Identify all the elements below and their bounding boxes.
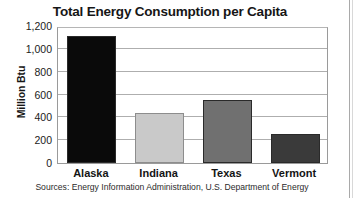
bar-texas: [203, 100, 252, 163]
x-tick-label-indiana: Indiana: [125, 167, 193, 179]
y-tick-label: 200: [0, 134, 52, 146]
y-tick-label: 1,000: [0, 43, 52, 55]
page-edge-artifact: [349, 0, 350, 198]
y-tick-label: 800: [0, 66, 52, 78]
chart-title: Total Energy Consumption per Capita: [0, 4, 340, 19]
y-tick-label: 0: [0, 157, 52, 169]
bar-alaska: [67, 36, 116, 163]
x-tick-label-alaska: Alaska: [57, 167, 125, 179]
plot-area: [57, 27, 328, 164]
bar-indiana: [135, 113, 184, 163]
y-tick-label: 1,200: [0, 20, 52, 32]
x-tick-label-texas: Texas: [193, 167, 261, 179]
bar-vermont: [271, 134, 320, 163]
y-tick-label: 400: [0, 111, 52, 123]
y-tick-label: 600: [0, 89, 52, 101]
x-tick-label-vermont: Vermont: [260, 167, 328, 179]
source-note: Sources: Energy Information Administrati…: [0, 182, 344, 192]
chart-figure: Total Energy Consumption per Capita Mill…: [0, 0, 356, 198]
page-edge-artifact-secondary: [352, 0, 353, 198]
